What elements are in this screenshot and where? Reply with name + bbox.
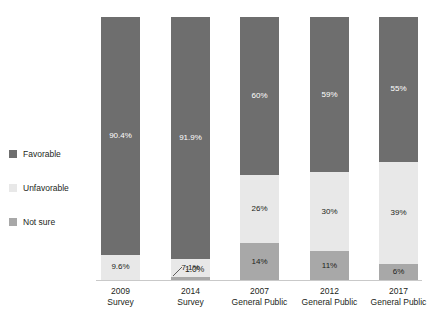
bar-segment-not-sure[interactable]: 6% — [379, 264, 418, 280]
bar-segment-label: 9.6% — [111, 263, 129, 271]
bar-stack: 59%30%11% — [310, 17, 349, 280]
bar-segment-favorable[interactable]: 91.9% — [171, 17, 210, 259]
bar-segment-favorable[interactable]: 90.4% — [101, 17, 140, 255]
bar-column[interactable]: 90.4%9.6% — [101, 17, 140, 280]
bar-segment-unfavorable[interactable]: 30% — [310, 172, 349, 251]
x-axis-label: 2017General Public — [353, 286, 431, 308]
bar-segment-label: 91.9% — [179, 134, 202, 142]
plot-area: 90.4%9.6%91.9%7.1%60%26%14%59%30%11%55%3… — [101, 17, 418, 280]
legend-item-not-sure[interactable]: Not sure — [9, 216, 95, 228]
legend-item-favorable[interactable]: Favorable — [9, 148, 95, 160]
bar-stack: 60%26%14% — [240, 17, 279, 280]
legend-item-unfavorable[interactable]: Unfavorable — [9, 182, 95, 194]
x-axis-label-year: 2017 — [353, 286, 431, 297]
bar-segment-label: 11% — [322, 262, 337, 270]
bar-column[interactable]: 59%30%11% — [310, 17, 349, 280]
bar-column[interactable]: 91.9%7.1% — [171, 17, 210, 280]
bar-segment-label: 60% — [251, 92, 267, 100]
bar-segment-favorable[interactable]: 59% — [310, 17, 349, 172]
legend-label-unfavorable: Unfavorable — [23, 184, 69, 193]
x-axis-label-group: General Public — [353, 297, 431, 308]
bar-segment-label: 14% — [251, 258, 267, 266]
bar-segment-label: 59% — [321, 91, 337, 99]
bar-stack: 90.4%9.6% — [101, 17, 140, 280]
bar-segment-label: 30% — [321, 208, 337, 216]
bar-segment-unfavorable[interactable]: 39% — [379, 162, 418, 265]
bar-stack: 55%39%6% — [379, 17, 418, 280]
bar-segment-favorable[interactable]: 60% — [240, 17, 279, 175]
bar-stack: 91.9%7.1% — [171, 17, 210, 280]
bar-column[interactable]: 55%39%6% — [379, 17, 418, 280]
legend-swatch-favorable — [9, 150, 17, 158]
bar-segment-unfavorable[interactable]: 26% — [240, 175, 279, 243]
legend-swatch-unfavorable — [9, 184, 17, 192]
bar-segment-label: 39% — [390, 209, 406, 217]
legend-label-not-sure: Not sure — [23, 218, 55, 227]
callout-label-1pct: 1.0% — [185, 264, 204, 274]
bar-column[interactable]: 60%26%14% — [240, 17, 279, 280]
legend-swatch-not-sure — [9, 218, 17, 226]
bar-segment-favorable[interactable]: 55% — [379, 17, 418, 162]
axis-baseline — [96, 280, 422, 281]
bar-segment-label: 26% — [251, 205, 267, 213]
bar-segment-label: 55% — [390, 85, 406, 93]
legend-label-favorable: Favorable — [23, 150, 61, 159]
bar-segment-not-sure[interactable]: 14% — [240, 243, 279, 280]
bar-segment-label: 90.4% — [109, 132, 132, 140]
bar-segment-label: 6% — [393, 268, 405, 276]
bar-segment-not-sure[interactable]: 11% — [310, 251, 349, 280]
chart-legend: Favorable Unfavorable Not sure — [9, 148, 95, 250]
bar-segment-unfavorable[interactable]: 9.6% — [101, 255, 140, 280]
